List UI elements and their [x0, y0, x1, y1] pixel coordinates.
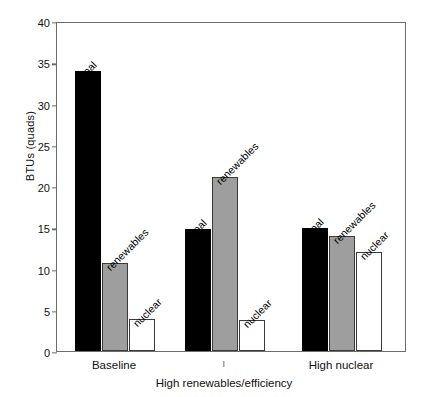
y-axis-tick-label: 15 [38, 223, 57, 235]
y-axis-tick-label: 0 [44, 347, 57, 359]
y-axis-tick-label: 30 [38, 100, 57, 112]
bar-renewables-high-renewables-efficiency [212, 177, 238, 351]
bar-coal-baseline [75, 71, 101, 351]
y-axis-title: BTUs (quads) [24, 76, 36, 216]
x-axis-group-label: High nuclear [309, 359, 374, 371]
bar-renewables-baseline [102, 263, 128, 351]
y-axis-tick-label: 40 [38, 17, 57, 29]
y-axis-tick-label: 10 [38, 265, 57, 277]
bar-renewables-high-nuclear [329, 236, 355, 352]
plot-area: 0510152025303540coalrenewablesnuclearcoa… [56, 22, 406, 352]
y-axis-tick-label: 5 [44, 306, 57, 318]
y-axis-tick-label: 35 [38, 58, 57, 70]
x-axis-group-label: Baseline [92, 359, 136, 371]
bar-nuclear-high-nuclear [356, 252, 382, 351]
x-axis-tick-mark [223, 361, 224, 367]
bar-coal-high-nuclear [302, 228, 328, 351]
bar-chart-figure: BTUs (quads) 0510152025303540coalrenewab… [0, 0, 423, 397]
y-axis-tick-label: 20 [38, 182, 57, 194]
bar-coal-high-renewables-efficiency [185, 229, 211, 351]
x-axis-group-label: High renewables/efficiency [156, 377, 293, 389]
y-axis-tick-label: 25 [38, 141, 57, 153]
